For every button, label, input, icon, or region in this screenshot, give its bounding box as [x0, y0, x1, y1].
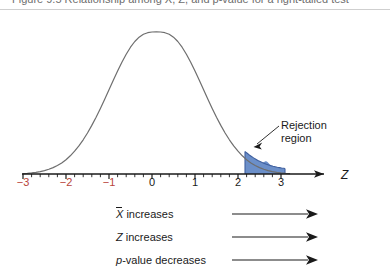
- tick-label-minus2: −2: [53, 176, 79, 188]
- tick-label-minus1: −1: [96, 176, 122, 188]
- normal-curve-figure: −3 −2 −1 0 1 2 3 Z Rejection region X in…: [0, 10, 390, 273]
- right-arrow-icon: [232, 254, 318, 266]
- annotation-label-z-increases: Z increases: [116, 231, 232, 243]
- right-arrow-icon: [232, 208, 318, 220]
- z-symbol: Z: [116, 231, 123, 243]
- tick-label-0: 0: [139, 176, 165, 188]
- figure-caption-strip: Figure 9.5 Relationship among X̄, Z, and…: [0, 0, 390, 9]
- x-bar-symbol: X: [116, 208, 123, 220]
- tick-label-2: 2: [225, 176, 251, 188]
- annotation-row-pvalue-decreases: p-value decreases: [116, 252, 318, 268]
- right-arrow-icon: [232, 231, 318, 243]
- rejection-region-label-line1: Rejection: [281, 119, 327, 132]
- rejection-region-pointer-line: [257, 126, 279, 144]
- annotation-text-pvalue: -value decreases: [122, 254, 206, 266]
- tick-label-minus3: −3: [10, 176, 36, 188]
- annotation-label-xbar-increases: X increases: [116, 208, 232, 220]
- annotation-row-z-increases: Z increases: [116, 229, 318, 245]
- annotation-text-z: increases: [123, 231, 173, 243]
- normal-distribution-curve: [23, 32, 290, 174]
- tick-label-1: 1: [182, 176, 208, 188]
- annotation-label-pvalue-decreases: p-value decreases: [116, 254, 232, 266]
- x-axis-label: Z: [341, 168, 348, 182]
- rejection-region-label: Rejection region: [281, 119, 327, 145]
- rejection-region-label-line2: region: [281, 132, 327, 145]
- annotation-row-xbar-increases: X increases: [116, 206, 318, 222]
- figure-caption-text: Figure 9.5 Relationship among X̄, Z, and…: [12, 0, 349, 5]
- annotation-text-xbar: increases: [123, 208, 173, 220]
- tick-label-3: 3: [268, 176, 294, 188]
